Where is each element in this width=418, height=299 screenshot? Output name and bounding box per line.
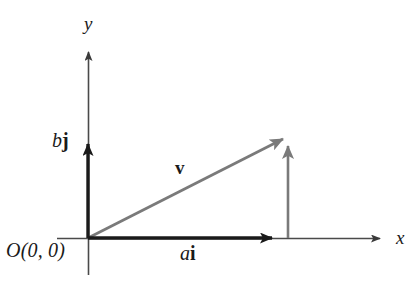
vector-diagram: y x O(0, 0) v ai bj [0,0,418,299]
origin-label: O(0, 0) [6,240,65,260]
bj-scalar: b [52,129,62,151]
vector-ai-label: ai [180,243,196,263]
x-axis-label: x [396,228,404,247]
ai-unit-vector: i [190,242,196,264]
vector-bj-label: bj [52,130,69,150]
ai-scalar: a [180,242,190,264]
bj-unit-vector: j [62,129,69,151]
vector-v-label: v [175,158,185,177]
y-axis-label: y [84,14,92,33]
vector-v-arrow [88,139,283,238]
